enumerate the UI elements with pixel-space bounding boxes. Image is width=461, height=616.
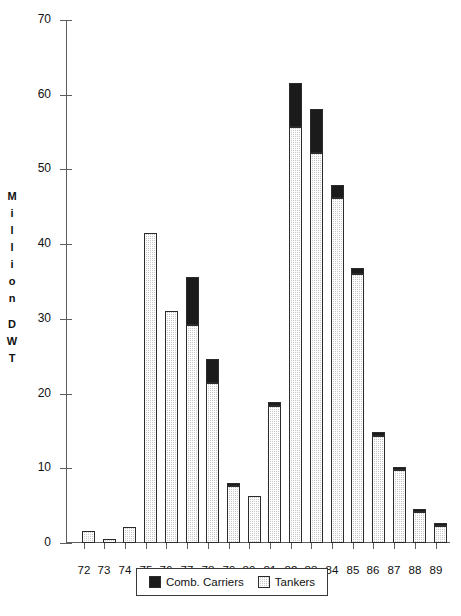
bar-segment-comb-carriers xyxy=(268,402,281,406)
y-tick-label: 30 xyxy=(21,311,51,325)
x-tick: 89 xyxy=(436,542,437,549)
bar-segment-tankers xyxy=(248,496,261,543)
bar-stack xyxy=(82,531,95,543)
bar-stack xyxy=(393,467,406,543)
bar-stack xyxy=(372,432,385,543)
x-tick: 85 xyxy=(353,542,354,549)
chart-container: MillionDWT 010203040506070 7273747576777… xyxy=(0,0,461,616)
y-tick-label: 10 xyxy=(21,460,51,474)
bar-stack xyxy=(351,268,364,543)
y-tick: 30 xyxy=(60,319,72,320)
x-tick: 77 xyxy=(187,542,188,549)
plot-area: 010203040506070 727374757677787980818283… xyxy=(66,20,450,543)
y-axis-title-letter: W xyxy=(2,333,22,350)
y-tick: 50 xyxy=(60,169,72,170)
x-tick: 87 xyxy=(394,542,395,549)
bar-segment-tankers xyxy=(227,486,240,543)
bar-segment-tankers xyxy=(331,198,344,543)
y-tick-label: 40 xyxy=(21,236,51,250)
y-tick: 0 xyxy=(60,543,72,544)
legend-item-comb-carriers: Comb. Carriers xyxy=(149,576,244,588)
bar-segment-comb-carriers xyxy=(186,277,199,325)
bar-stack xyxy=(268,402,281,543)
y-tick-label: 20 xyxy=(21,386,51,400)
x-tick: 86 xyxy=(373,542,374,549)
bar-segment-comb-carriers xyxy=(206,359,219,383)
bar-stack xyxy=(123,527,136,543)
chart-legend: Comb. Carriers Tankers xyxy=(136,568,328,596)
y-axis-title-letter xyxy=(2,307,22,316)
bar-segment-tankers xyxy=(186,325,199,543)
bar-segment-comb-carriers xyxy=(351,268,364,274)
bar-segment-tankers xyxy=(123,527,136,543)
bar-stack xyxy=(289,83,302,543)
bar-stack xyxy=(144,233,157,543)
x-tick: 78 xyxy=(208,542,209,549)
y-axis-title-letter: T xyxy=(2,350,22,367)
x-tick: 72 xyxy=(84,542,85,549)
bar-stack xyxy=(413,511,426,543)
x-tick: 75 xyxy=(146,542,147,549)
bar-stack xyxy=(434,524,447,543)
bar-segment-tankers xyxy=(144,233,157,543)
bar-segment-tankers xyxy=(289,127,302,543)
x-tick: 80 xyxy=(249,542,250,549)
y-tick: 10 xyxy=(60,468,72,469)
bar-segment-comb-carriers xyxy=(434,523,447,526)
x-tick: 79 xyxy=(229,542,230,549)
y-tick: 60 xyxy=(60,95,72,96)
legend-swatch-tankers-icon xyxy=(258,576,270,588)
bar-stack xyxy=(331,185,344,543)
legend-label-comb-carriers: Comb. Carriers xyxy=(166,576,244,588)
bar-segment-tankers xyxy=(351,274,364,543)
legend-swatch-comb-carriers-icon xyxy=(149,576,161,588)
bar-segment-tankers xyxy=(413,512,426,543)
bar-segment-tankers xyxy=(393,470,406,543)
bar-segment-comb-carriers xyxy=(331,185,344,198)
x-tick: 88 xyxy=(415,542,416,549)
bar-segment-tankers xyxy=(206,383,219,543)
y-axis-title-letter: o xyxy=(2,273,22,290)
bar-stack xyxy=(206,359,219,543)
legend-item-tankers: Tankers xyxy=(258,576,315,588)
bar-stack xyxy=(227,483,240,543)
bar-segment-tankers xyxy=(372,436,385,543)
x-tick: 82 xyxy=(291,542,292,549)
bar-stack xyxy=(186,277,199,543)
x-tick: 74 xyxy=(125,542,126,549)
bar-stack xyxy=(103,539,116,543)
bar-segment-comb-carriers xyxy=(393,467,406,470)
legend-label-tankers: Tankers xyxy=(275,576,315,588)
bar-segment-tankers xyxy=(103,539,116,543)
bar-segment-comb-carriers xyxy=(310,109,323,153)
bar-segment-comb-carriers xyxy=(413,509,426,512)
bar-segment-tankers xyxy=(268,406,281,543)
bar-segment-tankers xyxy=(434,526,447,543)
y-tick-label: 50 xyxy=(21,161,51,175)
x-tick: 81 xyxy=(270,542,271,549)
bar-stack xyxy=(248,496,261,543)
bar-stack xyxy=(165,311,178,543)
bar-segment-tankers xyxy=(310,153,323,543)
bar-segment-comb-carriers xyxy=(289,83,302,127)
bar-segment-comb-carriers xyxy=(227,483,240,486)
y-tick: 40 xyxy=(60,244,72,245)
y-tick-label: 60 xyxy=(21,87,51,101)
x-tick: 83 xyxy=(311,542,312,549)
y-axis-title: MillionDWT xyxy=(2,188,22,367)
y-axis-title-letter: n xyxy=(2,290,22,307)
x-tick-label: 89 xyxy=(423,564,449,576)
bar-segment-tankers xyxy=(82,531,95,543)
x-tick: 84 xyxy=(332,542,333,549)
x-tick: 76 xyxy=(166,542,167,549)
y-axis-line xyxy=(66,20,67,543)
y-axis-title-letter: i xyxy=(2,256,22,273)
y-tick: 20 xyxy=(60,394,72,395)
bar-segment-tankers xyxy=(165,311,178,543)
y-axis-title-letter: M xyxy=(2,188,22,205)
x-tick: 73 xyxy=(104,542,105,549)
y-axis-title-letter: D xyxy=(2,316,22,333)
y-axis-title-letter: i xyxy=(2,205,22,222)
y-axis-title-letter: l xyxy=(2,239,22,256)
y-tick: 70 xyxy=(60,20,72,21)
